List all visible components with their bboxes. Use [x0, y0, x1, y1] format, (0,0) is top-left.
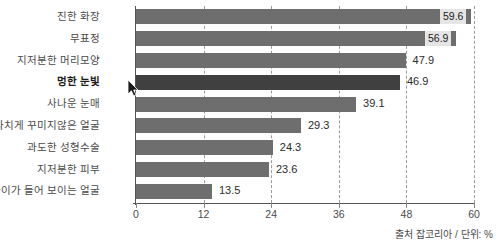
category-label: 지저분한 머리모양 — [0, 50, 100, 72]
bar-row: 사나운 눈매 39.1 — [136, 93, 474, 115]
value-label: 59.6 — [440, 6, 466, 28]
bar-segment[interactable] — [136, 162, 269, 177]
x-axis-tick-label: 36 — [319, 208, 359, 220]
bar-row-highlighted: 멍한 눈빛 46.9 — [136, 71, 474, 93]
source-note: 출처 잡코리아 / 단위: % — [395, 226, 493, 241]
value-label: 13.5 — [212, 180, 240, 202]
value-label: 56.9 — [425, 28, 451, 50]
category-label: 무표정 — [0, 28, 100, 50]
category-label: 나이가 들어 보이는 얼굴 — [0, 180, 100, 202]
bar-segment[interactable] — [136, 184, 212, 199]
bar-row: 나이가 들어 보이는 얼굴 13.5 — [136, 180, 474, 202]
category-label-highlighted: 멍한 눈빛 — [0, 71, 100, 93]
bar-row: 진한 화장 59.6 — [136, 6, 474, 28]
plot-area: 진한 화장 59.6 무표정 56.9 지저분한 머리모양 47.9 멍한 눈빛… — [136, 6, 474, 203]
y-axis-line — [135, 6, 136, 205]
value-label: 39.1 — [356, 93, 384, 115]
bar-segment[interactable] — [136, 9, 471, 24]
bar-segment[interactable] — [136, 118, 301, 133]
bar-row: 지저분한 머리모양 47.9 — [136, 50, 474, 72]
x-axis-tick-label: 60 — [454, 208, 494, 220]
bar-chart: 진한 화장 59.6 무표정 56.9 지저분한 머리모양 47.9 멍한 눈빛… — [0, 0, 501, 247]
category-label: 지나치게 꾸미지않은 얼굴 — [0, 115, 100, 137]
value-label: 47.9 — [406, 50, 434, 72]
bar-segment-highlighted[interactable] — [136, 75, 400, 90]
bar-row: 지저분한 피부 23.6 — [136, 159, 474, 181]
x-axis-tick-label: 0 — [116, 208, 156, 220]
value-label: 29.3 — [301, 115, 329, 137]
category-label: 과도한 성형수술 — [0, 137, 100, 159]
category-label: 사나운 눈매 — [0, 93, 100, 115]
x-axis-tick-label: 24 — [251, 208, 291, 220]
category-label: 진한 화장 — [0, 6, 100, 28]
category-label: 지저분한 피부 — [0, 159, 100, 181]
x-axis-line — [133, 203, 474, 204]
bar-row: 과도한 성형수술 24.3 — [136, 137, 474, 159]
bar-row: 지나치게 꾸미지않은 얼굴 29.3 — [136, 115, 474, 137]
bar-segment[interactable] — [136, 97, 356, 112]
gridline-60 — [474, 6, 475, 203]
bar-segment[interactable] — [136, 53, 406, 68]
value-label: 46.9 — [400, 71, 428, 93]
x-axis-tick-label: 12 — [184, 208, 224, 220]
bar-row: 무표정 56.9 — [136, 28, 474, 50]
value-label: 24.3 — [273, 137, 301, 159]
bar-segment[interactable] — [136, 140, 273, 155]
bar-segment[interactable] — [136, 31, 456, 46]
x-axis-tick-label: 48 — [386, 208, 426, 220]
value-label: 23.6 — [269, 159, 297, 181]
